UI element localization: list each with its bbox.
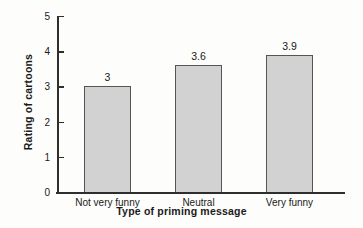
y-axis-tick-mark: [59, 16, 64, 17]
bar: 3.9: [266, 55, 313, 192]
x-axis-title: Type of priming message: [0, 205, 363, 217]
bar: 3.6: [175, 65, 222, 192]
y-axis-tick-label: 4: [44, 46, 50, 57]
y-axis-tick-label: 0: [44, 187, 50, 198]
x-axis-line: [56, 192, 345, 194]
y-axis-title: Rating of cartoons: [22, 22, 34, 182]
y-axis-tick-label: 3: [44, 81, 50, 92]
y-axis-tick-label: 5: [44, 11, 50, 22]
bar-value-label: 3: [105, 71, 111, 83]
y-axis-tick-mark: [59, 157, 64, 158]
y-axis-tick-mark: [59, 86, 64, 87]
y-axis-tick-mark: [59, 122, 64, 123]
y-axis-tick-label: 1: [44, 151, 50, 162]
y-axis-tick-mark: [59, 51, 64, 52]
bar-value-label: 3.6: [191, 50, 206, 62]
plot-area: 012345 33.63.9 Not very funnyNeutralVery…: [57, 16, 345, 192]
y-axis-line: [57, 16, 59, 192]
bar-chart-figure: Rating of cartoons 012345 33.63.9 Not ve…: [0, 0, 363, 228]
bar: 3: [84, 86, 131, 192]
y-axis-tick-mark: [59, 192, 64, 193]
y-axis-tick-label: 2: [44, 116, 50, 127]
bar-value-label: 3.9: [282, 40, 297, 52]
